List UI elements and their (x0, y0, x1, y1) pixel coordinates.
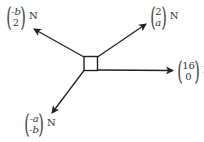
unit: N (170, 10, 179, 21)
force-label-top-right: ( 2 a ) N (148, 4, 178, 30)
left-paren: ( (24, 111, 30, 137)
vector-components: 16 0 (182, 60, 195, 82)
right-paren: ) (194, 58, 200, 84)
left-paren: ( (177, 58, 183, 84)
right-paren: ) (38, 111, 44, 137)
unit: N (203, 64, 204, 75)
right-paren: ) (161, 4, 167, 30)
force-label-top-left: ( -b 2 ) N (4, 4, 38, 30)
force-arrow-right (98, 70, 174, 71)
right-paren: ) (20, 4, 26, 30)
force-arrow-top-left (34, 29, 84, 57)
component-top: 16 (182, 60, 195, 71)
particle-box (84, 57, 98, 71)
force-label-right: ( 16 0 ) N (175, 58, 204, 84)
left-paren: ( (150, 4, 156, 30)
force-arrow-bottom-left (52, 71, 84, 114)
unit: N (29, 10, 38, 21)
force-arrow-top-right (98, 24, 147, 57)
left-paren: ( (6, 4, 12, 30)
component-bottom: 2 (13, 17, 19, 28)
unit: N (47, 117, 56, 128)
component-bottom: 0 (185, 71, 191, 82)
force-label-bottom-left: ( -a -b ) N (22, 111, 56, 137)
